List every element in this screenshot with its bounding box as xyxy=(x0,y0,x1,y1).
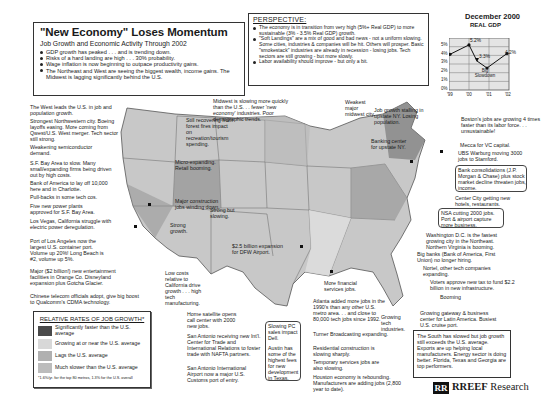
ytick: 4% xyxy=(441,51,448,56)
ytick: 2% xyxy=(441,68,448,73)
gdp-chart xyxy=(449,38,519,93)
city-marker xyxy=(410,160,413,163)
note-ubs: UBS Warburg moving 3000 jobs to Stamford… xyxy=(458,150,528,162)
ytick: 5% xyxy=(441,42,448,47)
label-peak: 5.2% xyxy=(470,38,481,43)
bullet: The Northeast and West are seeing the bi… xyxy=(40,68,238,80)
xtick: '01 xyxy=(486,92,492,97)
brand-name: RREEF Research xyxy=(452,381,529,392)
city-marker xyxy=(440,150,443,153)
legend-item: Significantly faster than the U.S. avera… xyxy=(38,325,146,337)
legend-item: Lags the U.S. average xyxy=(38,351,146,361)
note-temporary: Temporary services jobs are also slowing… xyxy=(313,359,383,371)
summary-bullets: GDP growth has peaked . . . and is trend… xyxy=(40,49,238,80)
note-nortel: Nortel, other tech companies expanding. xyxy=(423,265,503,277)
note-center-city: Center City getting new hotels, restaura… xyxy=(455,195,527,207)
ytick: 3% xyxy=(441,59,448,64)
ytick: 0% xyxy=(441,86,448,91)
chart-title: December 2000 xyxy=(465,12,520,21)
note-vc: Mecca for VC capital. xyxy=(460,142,530,148)
note-sanantonio: San Antonio receiving new Int'l. Center … xyxy=(187,333,261,357)
legend-label: Significantly faster than the U.S. avera… xyxy=(55,325,146,337)
note-dell: Slowing PC sales impact Dell. xyxy=(268,323,300,341)
note-seattle: Strongest Northwestern city. Boeing layo… xyxy=(30,118,122,142)
bullet: Labor availability should improve - but … xyxy=(253,59,424,65)
city-marker xyxy=(148,203,151,206)
title-box: "New Economy" Loses Momentum Job Growth … xyxy=(33,22,245,96)
note-banking-ny: Banking center for upstate NY. xyxy=(371,138,407,150)
brand-name-bold: RREEF xyxy=(452,381,488,392)
note-pullbacks: Pull-backs in some tech cos. xyxy=(30,194,112,200)
annotation-slowdown: Big Slowdown xyxy=(472,68,498,78)
legend-label: Growing at or near the U.S. average xyxy=(55,341,140,347)
note-houston: Houston economy is rebounding. Manufactu… xyxy=(313,374,405,392)
note-lasvegas: Los Vegas, California struggle with elec… xyxy=(30,218,112,230)
note-lowcost: Low costs relative to California drive g… xyxy=(165,270,203,306)
note-boston: Boston's jobs are growing 4 times faster… xyxy=(461,116,541,134)
note-semiconductor: Weakening semiconductor demand. xyxy=(30,144,106,156)
note-dfw: $2.5 billion expansion for DFW Airport. xyxy=(232,243,284,255)
note-financial: More financial services jobs. xyxy=(324,280,374,292)
note-bank-consol: Bank consolidations (J.P. Morgan & Chase… xyxy=(458,167,526,191)
perspective-title: PERSPECTIVE: xyxy=(253,16,424,24)
note-residential: Residential construction is slowing shar… xyxy=(313,345,393,357)
note-growing-tech: Growing tech industries. xyxy=(381,314,407,332)
note-upstate: Job growth stalling in upstate NY. Losin… xyxy=(374,107,428,125)
headline: "New Economy" Loses Momentum xyxy=(40,26,238,39)
legend-swatch xyxy=(38,326,52,336)
note-satellite: Home satellite opens call center with 20… xyxy=(187,311,237,329)
perspective-bullets: The economy is in transition from very h… xyxy=(253,25,424,65)
legend-swatch xyxy=(38,351,52,361)
legend-item: Growing at or near the U.S. average xyxy=(38,339,146,349)
note-atlanta: Atlanta added more jobs in the 1990's th… xyxy=(313,298,387,322)
legend-label: Lags the U.S. average xyxy=(55,353,108,359)
note-la-port: Port of Los Angeles now the largest U.S.… xyxy=(30,238,106,262)
note-west: The West leads the U.S. in job and popul… xyxy=(30,104,120,116)
xtick: '02 xyxy=(505,92,511,97)
south-box: The South has slowed but job growth stil… xyxy=(413,330,511,378)
subtitle: Job Growth and Economic Activity Through… xyxy=(40,40,238,48)
perspective-box: PERSPECTIVE: The economy is in transitio… xyxy=(248,13,429,86)
note-sf: S.F. Bay Area to slow. Many small/expand… xyxy=(30,160,118,178)
note-boise: Micro-expanding. Retail booming. xyxy=(175,159,225,171)
city-marker xyxy=(300,245,303,248)
legend-label: Much slower than the U.S. average xyxy=(55,365,138,371)
xtick: '00 xyxy=(466,92,472,97)
ytick: 1% xyxy=(441,77,448,82)
rreef-logo-icon: RR xyxy=(433,382,449,394)
label-mid: 3.3% xyxy=(479,54,490,59)
note-south: The South has slowed but job growth stil… xyxy=(417,333,507,369)
note-orange: Major ($2 billion!) new entertainment fa… xyxy=(30,268,126,286)
legend-title: RELATIVE RATES OF JOB GROWTH* xyxy=(38,315,146,323)
note-sa-airport: San Antonio International Airport now a … xyxy=(187,365,259,383)
note-qualcomm: Chinese telecom officials adopt, give bi… xyxy=(30,293,142,305)
city-marker xyxy=(330,270,333,273)
brand-name-rest: Research xyxy=(488,381,529,392)
note-miami: Growing gateway & business center for La… xyxy=(420,310,500,328)
note-dc: Washington D.C. is the fastest growing c… xyxy=(426,232,506,250)
label-02: 4.2% xyxy=(505,50,516,55)
bullet: "Soft Landings" are a mix of good and ba… xyxy=(253,36,424,59)
note-phoenix: Strong growth. xyxy=(170,222,200,234)
legend-swatch xyxy=(38,339,52,349)
note-boa: Bank of America to lay off 10,000 here a… xyxy=(30,180,110,192)
note-weakest: Weakest major midwest city. xyxy=(345,99,377,117)
chart-subtitle: REAL GDP xyxy=(470,22,501,28)
note-power: Five new power plants approved for S.F. … xyxy=(30,203,100,215)
note-voters: Voters approve new tax to fund $2.2 bill… xyxy=(430,279,522,291)
xtick: '99 xyxy=(447,92,453,97)
legend-swatch xyxy=(38,363,52,373)
legend-footnote: *1.6%/yr. for the top 80 metros, 1.3% fo… xyxy=(38,376,146,381)
note-booming: Booming xyxy=(440,294,470,300)
legend-item: Much slower than the U.S. average xyxy=(38,363,146,373)
note-denver: Strong but slowing. xyxy=(210,207,242,219)
legend-box: RELATIVE RATES OF JOB GROWTH* Significan… xyxy=(33,311,151,388)
note-midwest: Midwest is slowing more quickly than the… xyxy=(213,98,299,122)
city-marker xyxy=(134,225,137,228)
note-turner: Turner Broadcasting expanding. xyxy=(313,331,403,337)
note-nsa: NSA cutting 2000 jobs. Port & airport ca… xyxy=(441,210,503,228)
note-austin: Austin has some of the highest fees for … xyxy=(268,345,300,381)
note-bigbanks: Big banks (Bank of America, First Union)… xyxy=(417,251,497,263)
